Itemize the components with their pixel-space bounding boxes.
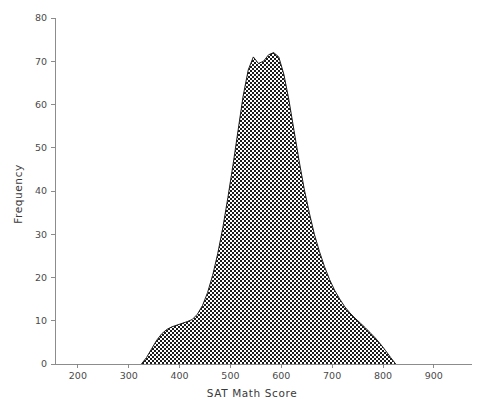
x-tick-label: 200 [69,370,87,381]
chart-figure: 01020304050607080 2003004005006007008009… [0,0,484,410]
y-tick-label: 70 [35,56,47,67]
y-tick-label: 10 [35,315,47,326]
x-tick-label: 400 [171,370,189,381]
y-tick-label: 30 [35,229,47,240]
y-tick-label: 0 [41,358,47,369]
y-tick-label: 50 [35,142,47,153]
x-tick-label: 700 [323,370,341,381]
x-tick-label: 300 [120,370,138,381]
histogram-density-chart: 01020304050607080 2003004005006007008009… [0,0,484,410]
y-tick-label: 40 [35,185,47,196]
y-tick-label: 20 [35,272,47,283]
x-tick-label: 600 [272,370,290,381]
x-tick-label: 500 [221,370,239,381]
y-tick-label: 80 [35,12,47,23]
x-tick-label: 900 [425,370,443,381]
y-axis-title: Frequency [12,164,24,224]
x-axis-title: SAT Math Score [207,387,297,399]
x-tick-label: 800 [374,370,392,381]
y-tick-label: 60 [35,99,47,110]
